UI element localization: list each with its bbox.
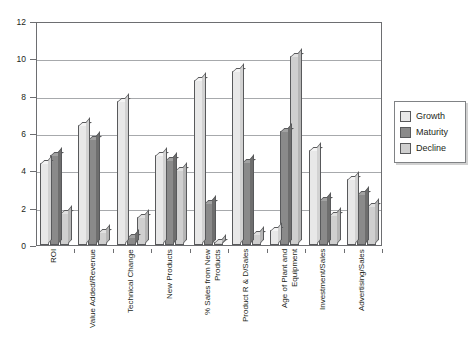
bar-growth-8 [347, 179, 356, 245]
x-axis-category-label: Investment/Sales [318, 249, 328, 345]
bar-side-face [375, 198, 379, 244]
x-axis-tick-mark [228, 249, 229, 253]
bar-side-face [355, 171, 359, 244]
legend-item-growth[interactable]: Growth [400, 108, 460, 124]
bar-side-face [327, 192, 331, 244]
bar-growth-6 [270, 230, 279, 245]
bar-side-face [288, 123, 292, 244]
x-axis-tick-mark [267, 249, 268, 253]
bar-growth-0 [40, 163, 49, 245]
bar-side-face [173, 152, 177, 244]
y-axis-tick-label: 4 [21, 166, 26, 176]
legend-swatch-icon [400, 143, 411, 154]
y-axis-tick-label: 12 [17, 17, 26, 27]
bar-side-face [202, 72, 206, 244]
bar-side-face [298, 49, 302, 244]
bar-side-face [317, 142, 321, 244]
x-axis-tick-mark [74, 249, 75, 253]
legend-item-maturity[interactable]: Maturity [400, 124, 460, 140]
x-axis-tick-mark [305, 249, 306, 253]
x-axis-category-label: ROI [49, 249, 59, 345]
x-axis-category-label: Technical Change [126, 249, 136, 345]
legend-label: Growth [416, 111, 445, 121]
bar-side-face [183, 163, 187, 244]
bar-side-face [145, 209, 149, 244]
bar-growth-4 [194, 80, 203, 245]
bar-side-face [212, 195, 216, 244]
bar-growth-5 [232, 71, 241, 245]
bar-side-face [48, 155, 52, 244]
bar-side-face [163, 148, 167, 244]
legend-label: Maturity [416, 127, 448, 137]
bar-chart: 024681012 ROIValue Added/RevenueTechnica… [0, 0, 475, 348]
bar-side-face [365, 186, 369, 244]
bar-growth-3 [155, 155, 164, 245]
bar-side-face [106, 224, 110, 244]
plot-area [36, 22, 382, 246]
bar-side-face [250, 154, 254, 244]
bar-growth-2 [117, 101, 126, 245]
gridline [37, 60, 381, 61]
bar-side-face [240, 64, 244, 244]
bar-side-face [96, 131, 100, 244]
legend-swatch-icon [400, 111, 411, 122]
bar-growth-1 [78, 125, 87, 245]
y-axis-tick-label: 10 [17, 54, 26, 64]
bar-growth-7 [309, 150, 318, 245]
x-axis-tick-mark [344, 249, 345, 253]
y-axis-tick-label: 8 [21, 92, 26, 102]
y-axis-tick-mark [30, 246, 36, 247]
x-axis-category-label: % Sales from New Products [203, 249, 222, 345]
x-axis-tick-mark [190, 249, 191, 253]
bar-side-face [86, 117, 90, 244]
bar-decline-4 [214, 242, 223, 245]
bar-side-face [125, 94, 129, 244]
x-axis: ROIValue Added/RevenueTechnical ChangeNe… [0, 249, 475, 348]
x-axis-category-label: Age of Plant and Equipment [280, 249, 299, 345]
y-axis-tick-label: 6 [21, 129, 26, 139]
x-axis-category-label: New Products [165, 249, 175, 345]
x-axis-tick-mark [382, 249, 383, 253]
y-axis-tick-label: 2 [21, 204, 26, 214]
x-axis-tick-mark [113, 249, 114, 253]
legend-label: Decline [416, 143, 446, 153]
bar-side-face [260, 226, 264, 244]
legend-item-decline[interactable]: Decline [400, 140, 460, 156]
x-axis-category-label: Product R & D/Sales [241, 249, 251, 345]
x-axis-category-label: Advertising/Sales [357, 249, 367, 345]
legend-swatch-icon [400, 127, 411, 138]
x-axis-category-label: Value Added/Revenue [88, 249, 98, 345]
gridline [37, 98, 381, 99]
bar-side-face [58, 148, 62, 244]
chart-legend: GrowthMaturityDecline [394, 101, 466, 163]
bar-side-face [337, 207, 341, 244]
bar-side-face [68, 206, 72, 244]
x-axis-tick-mark [151, 249, 152, 253]
